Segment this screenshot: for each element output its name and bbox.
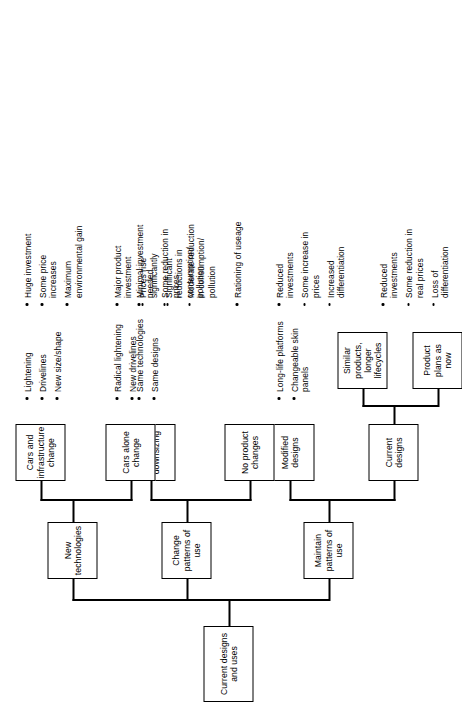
list-item: Some increase in prices (299, 220, 320, 306)
node-cars-alone-change-label: Cars alone change (120, 428, 141, 477)
node-similar-products-longer-lifecycles[interactable]: Similar products, longer lifecycles (337, 332, 387, 389)
node-modified-designs-label: Modified designs (279, 428, 300, 477)
bullets-cars-alone-features: Radical lightening New drivelines (112, 314, 142, 400)
connector-current-to-similar (362, 389, 364, 407)
bullets-cars-infrastructure-outcomes: Huge investment Some price increases Max… (22, 220, 88, 306)
node-cars-alone-change[interactable]: Cars alone change (105, 424, 155, 481)
node-cars-and-infrastructure-change-label: Cars and infrastructure change (24, 427, 55, 479)
list-item: Drivelines (37, 314, 47, 400)
list-item: Reduced investments (274, 220, 295, 306)
bullets-modified-designs-outcomes: Reduced investments Some increase in pri… (274, 220, 350, 306)
node-root-label: Current designs and uses (218, 630, 239, 698)
connector-change-out (186, 500, 188, 522)
connector-change-to-noproduct (249, 481, 251, 501)
list-item: Reduced investments (378, 220, 399, 306)
node-cars-and-infrastructure-change[interactable]: Cars and infrastructure change (15, 424, 65, 481)
connector-maintain-spine (289, 499, 395, 501)
connector-maintain-to-modified (289, 481, 291, 501)
node-product-plans-as-now-label: Product plans as now (421, 336, 452, 385)
list-item: Major product investment (112, 220, 133, 306)
bullets-cars-alone-outcomes: Major product investment Prices rise sig… (112, 220, 209, 306)
list-item: Rationing of useage (232, 220, 242, 306)
connector-maintain-to-current (393, 481, 395, 501)
node-root[interactable]: Current designs and uses (203, 626, 253, 702)
node-current-designs[interactable]: Current designs (368, 424, 418, 481)
connector-newtech-to-alone (130, 481, 132, 501)
node-product-plans-as-now[interactable]: Product plans as now (412, 332, 462, 389)
list-item: Loss of differentiation (429, 220, 450, 306)
node-current-designs-label: Current designs (383, 428, 404, 477)
list-item: Some reduction in real prices (403, 220, 424, 306)
list-item: Same designs (149, 314, 159, 400)
node-similar-products-label: Similar products, longer lifecycles (341, 336, 383, 385)
node-new-technologies[interactable]: New technologies (47, 522, 97, 579)
node-newtech-label: New technologies (62, 526, 83, 575)
list-item: Prices rise significantly (137, 220, 158, 306)
list-item: New drivelines (127, 314, 137, 400)
connector-maintain-out (328, 500, 330, 522)
list-item: Lightening (22, 314, 32, 400)
connector-change-spine (150, 499, 251, 501)
connector-to-maintain (328, 579, 330, 601)
list-item: New size/shape (52, 314, 62, 400)
list-item: Increased differentiation (325, 220, 346, 306)
list-item: Significant reductions in consumption/ p… (163, 220, 205, 306)
list-item: Changeable skin panels (289, 314, 310, 400)
connector-current-to-plans (437, 389, 439, 407)
node-maintain-patterns-of-use[interactable]: Maintain patterns of use (303, 522, 353, 579)
list-item: Maximum environmental gain (62, 220, 83, 306)
connector-change-to-downsizing (150, 481, 152, 501)
connector-newtech-out (72, 500, 74, 522)
list-item: Some price increases (37, 220, 58, 306)
connector-current-spine (362, 405, 438, 407)
node-change-patterns-of-use[interactable]: Change patterns of use (161, 522, 211, 579)
connector-newtech-spine (40, 499, 132, 501)
connector-main-spine (72, 599, 329, 601)
node-change-label: Change patterns of use (170, 526, 201, 575)
bullets-cars-infrastructure-features: Lightening Drivelines New size/shape (22, 314, 67, 400)
bullets-modified-designs-features: Long-life platforms Changeable skin pane… (274, 314, 314, 400)
node-no-product-changes-label: No product changes (239, 428, 260, 477)
list-item: Long-life platforms (274, 314, 284, 400)
list-item: Radical lightening (112, 314, 122, 400)
bullets-no-product-changes-features: Rationing of useage (232, 220, 247, 306)
connector-current-out (393, 406, 395, 424)
bullets-current-designs-features: Reduced investments Some reduction in re… (378, 220, 454, 306)
node-no-product-changes[interactable]: No product changes (224, 424, 274, 481)
list-item: Huge investment (22, 220, 32, 306)
connector-to-change (186, 579, 188, 601)
connector-to-newtech (72, 579, 74, 601)
connector-root-stem (228, 600, 230, 626)
node-maintain-label: Maintain patterns of use (312, 526, 343, 575)
connector-newtech-to-infra (40, 481, 42, 501)
